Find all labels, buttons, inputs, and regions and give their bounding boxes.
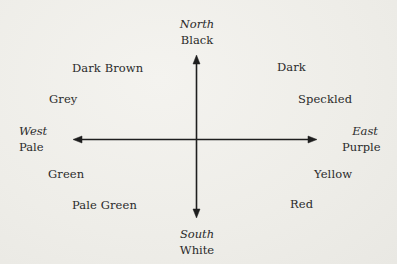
south-arrowhead-icon	[193, 209, 200, 218]
west-color: Pale	[19, 140, 47, 156]
label-green: Green	[48, 167, 84, 182]
north-direction-name: North	[172, 17, 222, 33]
label-pale-green: Pale Green	[72, 198, 137, 213]
east-direction-name: East	[342, 124, 378, 140]
west-arrowhead-icon	[73, 136, 82, 143]
south-direction-name: South	[172, 227, 222, 243]
label-dark: Dark	[277, 60, 306, 75]
north-label: North Black	[172, 17, 222, 48]
north-color: Black	[172, 33, 222, 49]
label-grey: Grey	[49, 92, 77, 107]
north-arrowhead-icon	[193, 55, 200, 64]
compass-diagram: North Black South White West Pale East P…	[0, 0, 397, 264]
south-label: South White	[172, 227, 222, 258]
label-yellow: Yellow	[314, 167, 352, 182]
label-dark-brown: Dark Brown	[72, 61, 143, 76]
south-color: White	[172, 243, 222, 259]
east-arrowhead-icon	[308, 136, 317, 143]
label-red: Red	[290, 197, 313, 212]
east-label: East Purple	[342, 124, 378, 155]
east-color: Purple	[342, 140, 378, 156]
label-speckled: Speckled	[298, 92, 352, 107]
west-label: West Pale	[19, 124, 47, 155]
west-direction-name: West	[19, 124, 47, 140]
